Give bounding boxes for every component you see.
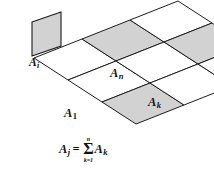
equation-lhs-sub: j [68,147,70,157]
label-A-1-base: A [64,106,72,120]
label-A-1: A1 [64,107,77,121]
sigma-icon: Σ [83,142,93,157]
label-A-n-base: A [110,66,118,80]
label-A-k-sub: k [157,100,161,110]
equation-rhs-sub: k [103,147,107,157]
label-A-n: An [110,67,123,81]
equation-lhs: Aj [59,143,70,157]
equation-rhs: Ak [95,143,108,157]
label-A-n-sub: n [119,71,124,81]
label-A-k: Ak [148,96,161,110]
equation-lhs-base: A [59,142,67,156]
label-A-k-base: A [148,95,156,109]
label-A-i-sub: i [37,61,39,70]
summation-equation: Aj = n Σ k=1 Ak [59,136,108,163]
equation-equals-sign: = [73,143,80,156]
figure-container: Ai An Ak A1 Aj = n Σ k=1 Ak [0,0,214,172]
label-A-1-sub: 1 [73,111,77,121]
label-A-i-base: A [29,56,37,68]
summation-operator: n Σ k=1 [83,136,93,163]
equation-rhs-base: A [95,142,103,156]
summation-lower-limit: k=1 [84,157,93,163]
label-A-i: Ai [29,57,39,70]
